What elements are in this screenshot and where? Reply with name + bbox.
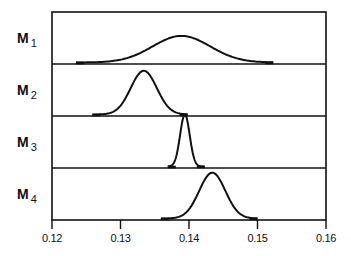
x-tick-label: 0.13 (110, 232, 130, 244)
panel-label-m4: M4 (17, 187, 37, 201)
x-tick-label: 0.15 (247, 232, 267, 244)
x-tick-label: 0.12 (42, 232, 62, 244)
label-subscript: 1 (31, 37, 37, 49)
label-main: M (17, 82, 29, 98)
x-tick-label: 0.16 (316, 232, 336, 244)
label-subscript: 2 (31, 89, 37, 101)
density-curve-m1 (76, 36, 273, 63)
label-subscript: 4 (31, 193, 37, 205)
density-curve-m2 (92, 71, 187, 115)
density-curve-m3 (168, 115, 205, 167)
panel-label-m1: M1 (17, 31, 37, 45)
label-main: M (17, 30, 29, 46)
label-main: M (17, 186, 29, 202)
ridgeline-chart (0, 0, 351, 256)
label-main: M (17, 134, 29, 150)
panel-label-m2: M2 (17, 83, 37, 97)
x-tick-label: 0.14 (179, 232, 199, 244)
density-curve-m4 (161, 173, 258, 219)
label-subscript: 3 (31, 141, 37, 153)
panel-label-m3: M3 (17, 135, 37, 149)
